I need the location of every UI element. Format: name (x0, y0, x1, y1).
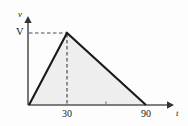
x-axis-label: t (176, 109, 179, 118)
x-axis-tick-label-90: 90 (136, 109, 156, 119)
y-axis-arrow-icon (24, 16, 31, 23)
y-axis-tick-label-V: V (16, 27, 24, 38)
y-axis-label: v (18, 10, 22, 19)
x-axis-arrow-icon (167, 101, 174, 109)
chart-canvas (0, 0, 188, 126)
x-axis-tick-label-30: 30 (57, 109, 77, 119)
velocity-time-chart: v t V 30 90 (0, 0, 188, 126)
area-under-curve (29, 33, 146, 105)
